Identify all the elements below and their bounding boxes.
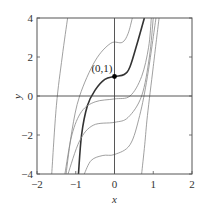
point-marker (112, 74, 117, 79)
x-tick-label: −1 (70, 178, 82, 190)
y-axis-label: y (11, 94, 23, 100)
ticks: −2−1012−4−2024 (21, 12, 194, 190)
x-tick-label: 2 (189, 178, 195, 190)
y-tick-label: 4 (28, 12, 34, 24)
x-axis-label: x (111, 193, 117, 205)
reference-axes (37, 18, 192, 174)
y-tick-label: 2 (28, 51, 34, 63)
point-annotation: (0,1) (91, 62, 116, 79)
y-tick-label: −4 (21, 168, 33, 180)
y-tick-label: 0 (28, 90, 34, 102)
point-label: (0,1) (91, 62, 112, 75)
x-tick-label: 0 (112, 178, 118, 190)
x-tick-label: 1 (151, 178, 157, 190)
y-tick-label: −2 (21, 129, 33, 141)
solution-curves-chart: −2−1012−4−2024 (0,1) x y (0, 0, 208, 211)
